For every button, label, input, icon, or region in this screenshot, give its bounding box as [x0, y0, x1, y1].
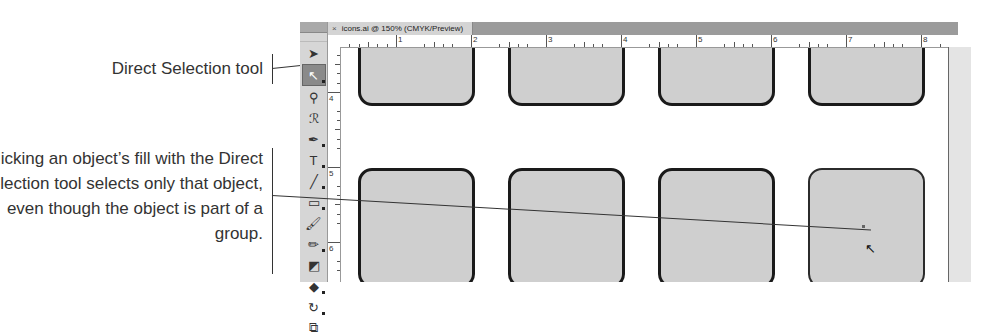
document-window: ×icons.ai @ 150% (CMYK/Preview) 1 2 3 4 …	[328, 22, 958, 282]
ruler-label: 5	[329, 169, 333, 178]
eraser-icon: ◆	[309, 279, 319, 294]
blob-brush-tool[interactable]: ◩	[303, 255, 325, 275]
ruler-minor-tick	[359, 44, 360, 47]
ruler-minor-tick	[337, 111, 340, 112]
magic-wand-icon: ⚲	[309, 90, 319, 105]
submenu-indicator	[322, 80, 325, 83]
direct-selection-tool[interactable]: ↖	[302, 64, 326, 86]
ruler-minor-tick	[387, 44, 388, 47]
ruler-major-tick	[771, 35, 772, 47]
lasso-tool[interactable]: ℛ	[303, 108, 325, 128]
ruler-minor-tick	[799, 44, 800, 47]
ruler-major-tick	[921, 35, 922, 47]
submenu-indicator	[322, 312, 325, 315]
ruler-minor-tick	[574, 44, 575, 47]
ruler-minor-tick	[337, 73, 340, 74]
icon-shape[interactable]	[358, 48, 475, 106]
ruler-minor-tick	[337, 214, 340, 215]
ruler-label: 6	[773, 35, 777, 44]
ruler-minor-tick	[337, 83, 340, 84]
vertical-ruler[interactable]: 4 5 6	[328, 47, 341, 282]
submenu-indicator	[322, 144, 325, 147]
ruler-minor-tick	[337, 186, 340, 187]
ruler-minor-tick	[827, 44, 828, 47]
ruler-minor-tick	[527, 44, 528, 47]
ruler-minor-tick	[809, 42, 810, 47]
tools-panel-header[interactable]	[300, 22, 327, 33]
icon-shape[interactable]	[508, 168, 625, 282]
ruler-minor-tick	[337, 195, 340, 196]
pen-icon: ✒	[308, 132, 319, 147]
scale-tool[interactable]: ⧉	[303, 318, 325, 336]
callout-direct-selection-tool: Direct Selection tool	[112, 56, 263, 81]
ruler-minor-tick	[335, 129, 340, 130]
ruler-minor-tick	[668, 44, 669, 47]
icon-shape[interactable]	[508, 48, 625, 106]
magic-wand-tool[interactable]: ⚲	[303, 87, 325, 107]
selection-tool[interactable]: ➤	[303, 43, 325, 63]
ruler-label: 5	[698, 35, 702, 44]
ruler-minor-tick	[424, 44, 425, 47]
ruler-minor-tick	[509, 42, 510, 47]
ruler-minor-tick	[337, 223, 340, 224]
blob-brush-icon: ◩	[308, 258, 320, 273]
line-icon: ╱	[310, 174, 318, 189]
ruler-label: 4	[623, 35, 627, 44]
ruler-minor-tick	[893, 44, 894, 47]
ruler-major-tick	[696, 35, 697, 47]
ruler-minor-tick	[734, 42, 735, 47]
ruler-label: 4	[329, 94, 333, 103]
ruler-minor-tick	[593, 44, 594, 47]
line-segment-tool[interactable]: ╱	[303, 171, 325, 191]
pasteboard	[949, 47, 971, 282]
callout-bracket-1	[272, 54, 273, 84]
ruler-minor-tick	[349, 44, 350, 47]
tools-panel: ➤ ↖ ⚲ ℛ ✒ T ╱ ▭ 🖌 ✏ ◩ ◆ ↻ ⧉	[300, 22, 328, 282]
ruler-minor-tick	[337, 270, 340, 271]
icon-shape[interactable]	[808, 48, 925, 106]
ruler-minor-tick	[368, 42, 369, 47]
rotate-tool[interactable]: ↻	[303, 297, 325, 317]
ruler-minor-tick	[649, 44, 650, 47]
center-point	[862, 225, 865, 228]
ruler-minor-tick	[940, 44, 941, 47]
ruler-major-tick	[621, 35, 622, 47]
ruler-minor-tick	[337, 148, 340, 149]
ruler-minor-tick	[518, 44, 519, 47]
ruler-major-tick	[846, 35, 847, 47]
icon-shape[interactable]	[658, 48, 775, 106]
horizontal-ruler[interactable]: 1 2 3 4 5 6 7 8	[328, 35, 958, 48]
callout-fill-selection: Clicking an object’s fill with the Direc…	[0, 146, 263, 246]
callout-bracket-2	[272, 148, 273, 274]
ruler-minor-tick	[752, 44, 753, 47]
ruler-label: 8	[923, 35, 927, 44]
ruler-minor-tick	[724, 44, 725, 47]
ruler-major-tick	[328, 167, 340, 168]
lasso-icon: ℛ	[309, 111, 319, 126]
ruler-minor-tick	[337, 261, 340, 262]
eraser-tool[interactable]: ◆	[303, 276, 325, 296]
icon-shape[interactable]	[358, 168, 475, 282]
ruler-minor-tick	[434, 42, 435, 47]
pen-tool[interactable]: ✒	[303, 129, 325, 149]
type-tool[interactable]: T	[303, 150, 325, 170]
close-tab-icon[interactable]: ×	[332, 24, 337, 33]
submenu-indicator	[322, 165, 325, 168]
pencil-tool[interactable]: ✏	[303, 234, 325, 254]
selected-icon-shape[interactable]	[808, 168, 925, 282]
type-icon: T	[310, 153, 318, 168]
tools-panel-grip[interactable]	[300, 33, 327, 42]
direct-selection-cursor-icon: ↖	[865, 241, 876, 256]
pencil-icon: ✏	[308, 237, 319, 252]
ruler-major-tick	[471, 35, 472, 47]
rectangle-tool[interactable]: ▭	[303, 192, 325, 212]
document-tab-title: icons.ai @ 150% (CMYK/Preview)	[342, 24, 464, 33]
artboard-canvas[interactable]: ↖	[341, 48, 958, 282]
icon-shape[interactable]	[658, 168, 775, 282]
paintbrush-tool[interactable]: 🖌	[303, 213, 325, 233]
ruler-minor-tick	[884, 42, 885, 47]
document-tab[interactable]: ×icons.ai @ 150% (CMYK/Preview)	[328, 22, 473, 35]
ruler-minor-tick	[602, 44, 603, 47]
scale-icon: ⧉	[309, 320, 318, 336]
submenu-indicator	[322, 249, 325, 252]
